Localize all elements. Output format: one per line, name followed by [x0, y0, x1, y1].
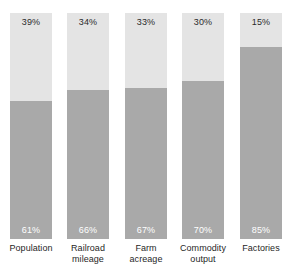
bar-segment-bottom[interactable]: 70%	[182, 81, 224, 239]
bar-stack: 30% 70%	[182, 13, 224, 239]
category-label-factories: Factories	[229, 243, 293, 254]
category-label-commodity-output: Commodity output	[171, 243, 235, 264]
plot-area: 39% 61% Population 34% 66% Railroad mile…	[0, 0, 293, 277]
bar-value-label-bottom: 66%	[67, 225, 109, 236]
bar-group-commodity-output: 30% 70% Commodity output	[182, 13, 224, 239]
bar-stack: 39% 61%	[10, 13, 52, 239]
bar-segment-bottom[interactable]: 85%	[240, 47, 282, 239]
bar-value-label-bottom: 85%	[240, 225, 282, 236]
bar-segment-bottom[interactable]: 66%	[67, 90, 109, 239]
bar-value-label-top: 39%	[10, 17, 52, 28]
bar-segment-bottom[interactable]: 67%	[125, 88, 167, 239]
category-label-farm-acreage: Farm acreage	[114, 243, 178, 264]
bar-value-label-bottom: 61%	[10, 225, 52, 236]
bar-value-label-bottom: 67%	[125, 225, 167, 236]
bar-value-label-top: 15%	[240, 17, 282, 28]
bar-value-label-top: 30%	[182, 17, 224, 28]
bar-value-label-top: 33%	[125, 17, 167, 28]
bar-value-label-top: 34%	[67, 17, 109, 28]
bar-segment-top[interactable]: 33%	[125, 13, 167, 88]
bar-segment-top[interactable]: 34%	[67, 13, 109, 90]
bar-stack: 15% 85%	[240, 13, 282, 239]
bar-group-population: 39% 61% Population	[10, 13, 52, 239]
bar-segment-top[interactable]: 39%	[10, 13, 52, 101]
bar-segment-bottom[interactable]: 61%	[10, 101, 52, 239]
category-label-railroad-mileage: Railroad mileage	[56, 243, 120, 264]
category-label-population: Population	[0, 243, 63, 254]
bar-stack: 33% 67%	[125, 13, 167, 239]
bar-group-railroad-mileage: 34% 66% Railroad mileage	[67, 13, 109, 239]
bar-value-label-bottom: 70%	[182, 225, 224, 236]
bar-group-farm-acreage: 33% 67% Farm acreage	[125, 13, 167, 239]
bar-segment-top[interactable]: 15%	[240, 13, 282, 47]
bar-segment-top[interactable]: 30%	[182, 13, 224, 81]
stacked-bar-chart: 39% 61% Population 34% 66% Railroad mile…	[0, 0, 293, 277]
bar-group-factories: 15% 85% Factories	[240, 13, 282, 239]
bar-stack: 34% 66%	[67, 13, 109, 239]
